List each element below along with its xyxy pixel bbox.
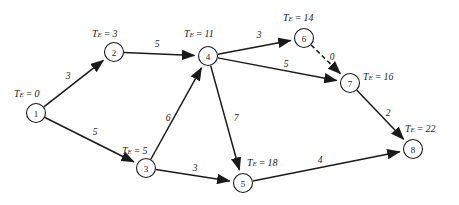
- edge-7-to-8: [357, 90, 404, 139]
- node-label-5: 5: [241, 179, 246, 189]
- node-3[interactable]: 3: [137, 159, 156, 178]
- te-value-1: 0: [34, 88, 39, 99]
- te-label-1: TE = 0: [14, 88, 39, 100]
- edge-weight-4-6: 3: [256, 30, 262, 40]
- node-label-3: 3: [144, 164, 149, 174]
- node-5[interactable]: 5: [234, 174, 253, 193]
- te-value-3: 5: [142, 145, 147, 156]
- node-4[interactable]: 4: [199, 47, 218, 66]
- edge-weight-2-4: 5: [155, 39, 160, 49]
- edges-layer: [44, 40, 404, 181]
- node-label-6: 6: [302, 34, 307, 44]
- te-label-8: TE = 22: [405, 123, 435, 135]
- edge-4-to-6: [218, 40, 291, 54]
- edge-weight-3-5: 3: [192, 163, 198, 173]
- te-equals-1: =: [24, 88, 35, 99]
- te-equals-8: =: [415, 123, 426, 134]
- edge-weight-5-8: 4: [318, 155, 323, 165]
- node-label-7: 7: [348, 79, 353, 89]
- node-7[interactable]: 7: [341, 74, 360, 93]
- edge-weight-1-2: 3: [65, 71, 71, 81]
- te-equals-3: =: [132, 145, 143, 156]
- node-1[interactable]: 1: [27, 104, 46, 123]
- edge-weight-4-7: 5: [284, 59, 289, 69]
- edge-weight-6-7: 0: [330, 52, 335, 62]
- te-equals-5: =: [257, 157, 268, 168]
- te-equals-4: =: [194, 28, 205, 39]
- edge-weight-1-3: 5: [93, 127, 98, 137]
- te-equals-2: =: [102, 28, 113, 39]
- node-label-2: 2: [112, 48, 117, 58]
- te-label-4: TE = 11: [184, 28, 214, 40]
- edge-weight-7-8: 2: [386, 108, 391, 118]
- te-value-5: 18: [267, 157, 277, 168]
- te-equals-7: =: [373, 71, 384, 82]
- te-value-2: 3: [111, 28, 117, 39]
- te-value-4: 11: [204, 28, 213, 39]
- te-label-7: TE = 16: [363, 71, 393, 83]
- te-value-8: 22: [425, 123, 435, 134]
- node-label-4: 4: [206, 52, 211, 62]
- te-label-5: TE = 18: [247, 157, 277, 169]
- te-value-6: 14: [303, 12, 313, 23]
- te-labels-layer: TE = 0TE = 3TE = 5TE = 11TE = 18TE = 14T…: [14, 12, 435, 169]
- edge-weight-3-4: 6: [166, 113, 171, 123]
- te-label-3: TE = 5: [122, 145, 147, 157]
- network-graph-canvas: 35563735042 12345678 TE = 0TE = 3TE = 5T…: [0, 0, 459, 205]
- te-value-7: 16: [383, 71, 393, 82]
- edge-2-to-4: [124, 52, 195, 55]
- te-equals-6: =: [293, 12, 304, 23]
- node-8[interactable]: 8: [404, 140, 423, 159]
- node-label-8: 8: [411, 145, 416, 155]
- node-label-1: 1: [34, 109, 39, 119]
- pert-network-diagram: 35563735042 12345678 TE = 0TE = 3TE = 5T…: [0, 0, 459, 205]
- te-label-6: TE = 14: [283, 12, 313, 24]
- te-label-2: TE = 3: [92, 28, 117, 40]
- node-6[interactable]: 6: [295, 29, 314, 48]
- node-2[interactable]: 2: [105, 43, 124, 62]
- edge-4-to-7: [218, 58, 337, 81]
- edge-3-to-4: [151, 68, 202, 159]
- edge-1-to-2: [44, 60, 103, 107]
- edge-1-to-3: [45, 117, 134, 161]
- edge-weight-4-5: 7: [234, 113, 240, 123]
- edge-6-to-7: [311, 45, 340, 74]
